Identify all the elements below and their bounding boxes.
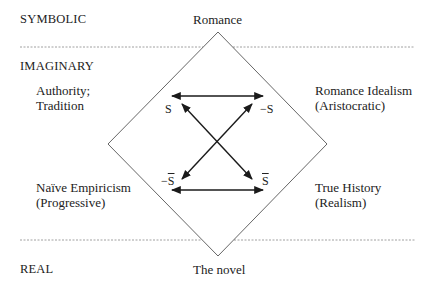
- label-true-history: True History (Realism): [315, 180, 381, 210]
- label-true-history-title: True History: [315, 180, 381, 195]
- label-progressive: (Progressive): [36, 195, 131, 210]
- label-aristocratic: (Aristocratic): [315, 98, 412, 113]
- label-authority-tradition: Authority; Tradition: [36, 83, 90, 113]
- register-symbolic: SYMBOLIC: [20, 12, 86, 27]
- symbol-s: S: [165, 102, 172, 116]
- symbol-neg-s-bar: −S: [161, 174, 174, 188]
- symbol-s-bar: S: [262, 174, 269, 188]
- semiotic-square-diagram: [0, 0, 430, 286]
- vertex-romance: Romance: [193, 12, 242, 27]
- register-imaginary: IMAGINARY: [20, 59, 94, 74]
- label-authority: Authority;: [36, 83, 90, 98]
- diamond-frame: [108, 32, 327, 256]
- label-tradition: Tradition: [36, 98, 90, 113]
- minus-sign: −: [161, 174, 168, 188]
- s-bar-letter: S: [168, 174, 175, 188]
- label-naive-empiricism: Naïve Empiricism (Progressive): [36, 180, 131, 210]
- label-romance-idealism-title: Romance Idealism: [315, 83, 412, 98]
- label-realism: (Realism): [315, 195, 381, 210]
- s-bar-letter: S: [262, 174, 269, 188]
- label-romance-idealism: Romance Idealism (Aristocratic): [315, 83, 412, 113]
- label-naive-empiricism-title: Naïve Empiricism: [36, 180, 131, 195]
- register-real: REAL: [20, 262, 53, 277]
- symbol-neg-s: −S: [260, 102, 273, 116]
- vertex-the-novel: The novel: [193, 262, 245, 277]
